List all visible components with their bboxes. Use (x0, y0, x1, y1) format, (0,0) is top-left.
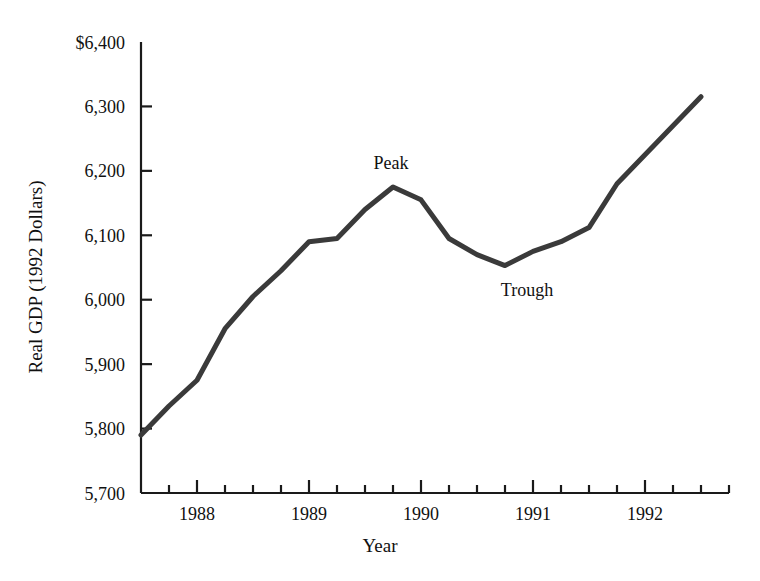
x-axis-tick-labels: 19881989199019911992 (179, 504, 663, 524)
y-axis-ticks (141, 106, 152, 428)
x-tick-label: 1989 (291, 504, 327, 524)
y-tick-label: 6,100 (85, 226, 126, 246)
y-tick-label: 6,300 (85, 97, 126, 117)
y-tick-label: 5,700 (85, 484, 126, 504)
x-tick-label: 1992 (627, 504, 663, 524)
plot-area: 19881989199019911992 $6,4006,3006,2006,1… (0, 0, 760, 581)
x-tick-label: 1988 (179, 504, 215, 524)
x-tick-label: 1991 (515, 504, 551, 524)
y-tick-label: 5,900 (85, 355, 126, 375)
gdp-series-line (141, 97, 701, 435)
y-tick-label: 5,800 (85, 419, 126, 439)
annotation-trough: Trough (501, 280, 553, 300)
cycle-annotations: PeakTrough (374, 153, 554, 300)
annotation-peak: Peak (374, 153, 409, 173)
y-tick-label: 6,200 (85, 161, 126, 181)
y-tick-label: $6,400 (76, 33, 126, 53)
gdp-business-cycle-chart: Real GDP (1992 Dollars) Year 19881989199… (0, 0, 760, 581)
y-tick-label: 6,000 (85, 290, 126, 310)
x-axis-ticks (169, 480, 729, 493)
x-tick-label: 1990 (403, 504, 439, 524)
y-axis-tick-labels: $6,4006,3006,2006,1006,0005,9005,8005,70… (76, 33, 126, 504)
